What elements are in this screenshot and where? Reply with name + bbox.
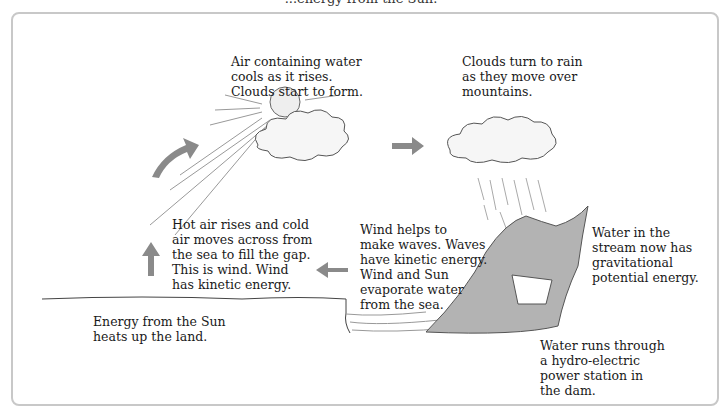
cloud-icon [255, 110, 348, 161]
label-wind: Hot air rises and cold air moves across … [172, 217, 312, 292]
arrow-up-icon [142, 242, 160, 276]
dam [512, 275, 552, 304]
label-dam: Water runs through a hydro-electric powe… [540, 338, 665, 398]
label-waves: Wind helps to make waves. Waves have kin… [360, 222, 487, 312]
arrow-right-icon [392, 137, 424, 155]
label-cloud-forms: Air containing water cools as it rises. … [231, 54, 363, 99]
arrow-left-icon [316, 262, 348, 278]
label-land: Energy from the Sun heats up the land. [93, 314, 226, 344]
rain-cloud-icon [448, 116, 557, 162]
arrow-curved-up-icon [152, 138, 199, 178]
label-rain: Clouds turn to rain as they move over mo… [462, 54, 583, 99]
label-stream: Water in the stream now has gravitationa… [592, 225, 699, 285]
